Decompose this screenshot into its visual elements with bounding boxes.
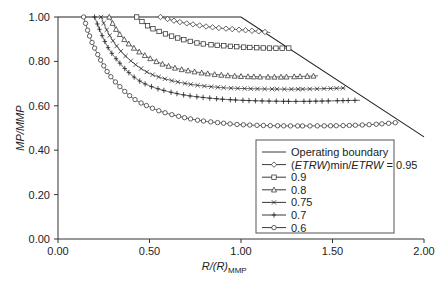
legend-label: 0.8 [291,184,306,196]
y-axis-label: MP/MMP [14,105,26,151]
series-0_75 [99,15,345,92]
series-line [84,17,399,126]
y-tick-label: 1.00 [29,11,50,23]
legend-label: 0.6 [291,222,306,234]
legend-label: 0.7 [291,209,306,221]
y-tick-label: 0.00 [29,233,50,245]
y-tick-label: 0.40 [29,144,50,156]
legend-label: 0.75 [291,196,312,208]
y-tick-label: 0.80 [29,55,50,67]
x-markers [99,15,345,92]
y-tick-label: 0.20 [29,189,50,201]
x-ticks: 0.000.501.001.502.00 [47,239,434,257]
y-ticks: 0.000.200.400.600.801.00 [29,11,58,245]
legend-label: Operating boundary [291,146,389,158]
chart: 0.000.200.400.600.801.00 0.000.501.001.5… [0,0,444,285]
x-axis-label-subscript: MMP [228,266,247,275]
x-tick-label: 0.00 [47,245,68,257]
x-tick-label: 1.50 [322,245,343,257]
y-tick-label: 0.60 [29,100,50,112]
legend-label: (ETRW)min/ETRW = 0.95 [291,159,417,171]
x-tick-label: 1.00 [230,245,251,257]
x-axis-label-main: R/(R) [202,260,229,272]
x-tick-label: 2.00 [413,245,434,257]
legend-label: 0.9 [291,171,306,183]
plot-area [58,14,424,137]
legend: Operating boundary(ETRW)min/ETRW = 0.950… [256,140,417,234]
x-tick-label: 0.50 [139,245,160,257]
